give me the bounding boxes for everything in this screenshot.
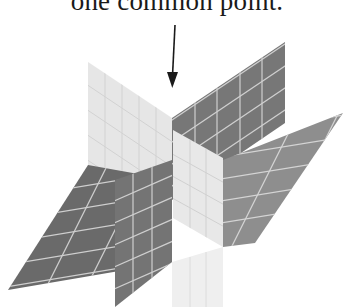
three-planes-diagram [0,0,354,307]
arrow-icon [167,25,178,88]
light-plane-lower [172,247,223,307]
